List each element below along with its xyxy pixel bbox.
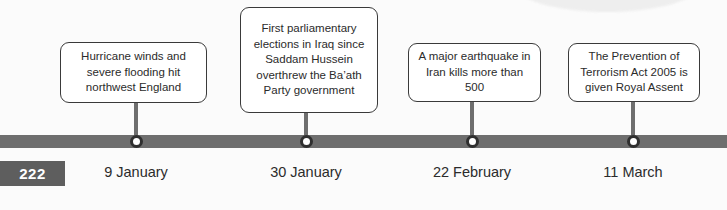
timeline-node-marker <box>627 135 640 148</box>
event-description-box: The Prevention of Terrorism Act 2005 is … <box>568 43 700 102</box>
event-date-label: 30 January <box>226 164 386 180</box>
timeline-node-marker <box>466 135 479 148</box>
event-date-label: 22 February <box>392 164 552 180</box>
event-description-box: Hurricane winds and severe flooding hit … <box>60 42 207 103</box>
timeline-node-marker <box>130 135 143 148</box>
event-connector-line <box>134 103 138 139</box>
event-connector-line <box>631 102 635 139</box>
event-description-box: A major earthquake in Iran kills more th… <box>408 43 541 102</box>
event-connector-line <box>470 102 474 139</box>
timeline-node-marker <box>300 135 313 148</box>
timeline-figure: 222 Hurricane winds and severe flooding … <box>0 0 727 210</box>
event-description-box: First parliamentary elections in Iraq si… <box>240 7 378 113</box>
event-date-label: 9 January <box>56 164 216 180</box>
scan-artifact-arc <box>512 0 702 12</box>
timeline-bar <box>0 135 727 148</box>
event-date-label: 11 March <box>553 164 713 180</box>
